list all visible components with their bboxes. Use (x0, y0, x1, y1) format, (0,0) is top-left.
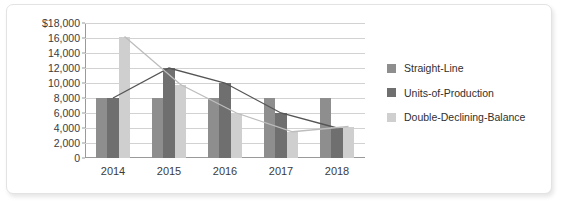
chart-frame: 02,0004,0006,0008,00010,00012,00014,0001… (6, 4, 552, 194)
legend-item[interactable]: Double-Declining-Balance (387, 112, 547, 123)
y-axis-tick-mark (82, 38, 85, 39)
bar-group (208, 23, 243, 158)
y-axis-tick-mark (82, 158, 85, 159)
y-axis-tick-label: 6,000 (54, 108, 80, 119)
legend-swatch-icon (387, 113, 396, 122)
y-axis-tick-label: 8,000 (54, 93, 80, 104)
y-axis-tick-mark (82, 23, 85, 24)
x-axis-tick-label: 2018 (325, 165, 349, 177)
legend-label: Units-of-Production (404, 88, 494, 99)
bar (287, 132, 299, 158)
y-axis-tick-mark (82, 83, 85, 84)
bar (175, 85, 187, 159)
legend-item[interactable]: Straight-Line (387, 63, 547, 74)
bar (96, 98, 108, 158)
bar (275, 113, 287, 158)
x-axis-tick-label: 2014 (101, 165, 125, 177)
y-axis-tick-mark (82, 128, 85, 129)
y-axis-tick-label: 2,000 (54, 138, 80, 149)
legend-item[interactable]: Units-of-Production (387, 88, 547, 99)
bar (231, 113, 243, 158)
y-axis-tick-mark (82, 113, 85, 114)
bar (219, 83, 231, 158)
x-axis-tick-label: 2015 (157, 165, 181, 177)
y-axis-tick-mark (82, 53, 85, 54)
y-axis-tick-label: $18,000 (42, 18, 80, 29)
bar-group (152, 23, 187, 158)
x-axis-tick-label: 2017 (269, 165, 293, 177)
bar-group (264, 23, 299, 158)
bar-group (96, 23, 131, 158)
x-axis-tick-label: 2016 (213, 165, 237, 177)
y-axis-tick-mark (82, 68, 85, 69)
y-axis-tick-label: 12,000 (48, 63, 80, 74)
bar (331, 128, 343, 158)
bar (343, 127, 355, 159)
bar (107, 98, 119, 158)
bar (264, 98, 276, 158)
legend-swatch-icon (387, 88, 396, 97)
y-axis-tick-label: 10,000 (48, 78, 80, 89)
bar-group (320, 23, 355, 158)
legend-label: Double-Declining-Balance (404, 112, 525, 123)
chart-figure: 02,0004,0006,0008,00010,00012,00014,0001… (0, 0, 564, 204)
legend-swatch-icon (387, 64, 396, 73)
bar (152, 98, 164, 158)
bar (119, 37, 131, 159)
y-axis-tick-mark (82, 98, 85, 99)
chart-legend: Straight-LineUnits-of-ProductionDouble-D… (387, 63, 547, 137)
y-axis-tick-label: 16,000 (48, 33, 80, 44)
bar (320, 98, 332, 158)
y-axis (85, 23, 86, 158)
bar (208, 98, 220, 158)
y-axis-tick-mark (82, 143, 85, 144)
bar (163, 68, 175, 158)
plot-area: 02,0004,0006,0008,00010,00012,00014,0001… (85, 23, 365, 158)
legend-label: Straight-Line (404, 63, 464, 74)
y-axis-tick-label: 4,000 (54, 123, 80, 134)
y-axis-tick-label: 14,000 (48, 48, 80, 59)
y-axis-tick-label: 0 (74, 153, 80, 164)
chart-canvas: 02,0004,0006,0008,00010,00012,00014,0001… (7, 5, 553, 195)
